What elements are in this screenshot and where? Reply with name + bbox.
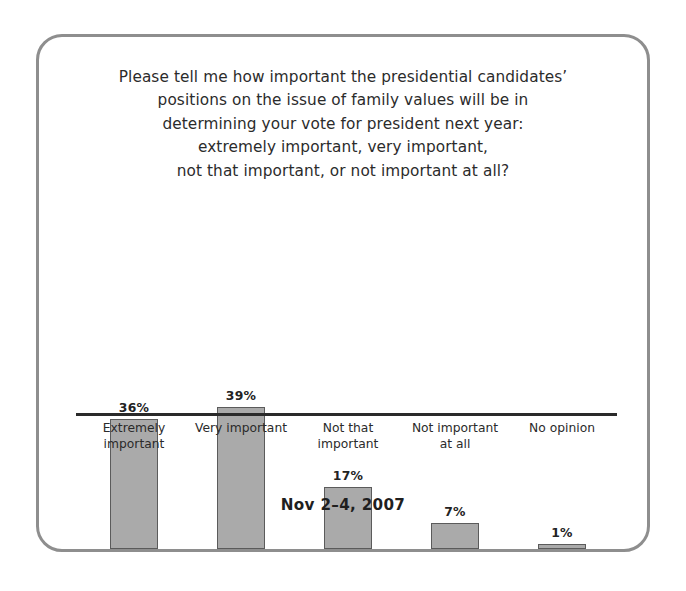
x-axis-baseline	[76, 413, 617, 416]
category-label-no-opinion: No opinion	[504, 421, 620, 437]
category-label-line-1: Not that	[323, 421, 373, 435]
poll-chart-card: Please tell me how important the preside…	[36, 34, 650, 552]
category-label-line-2: at all	[440, 437, 471, 451]
bar-value-label-5: 1%	[520, 525, 604, 540]
bar-group-very-important: 39%	[217, 173, 265, 549]
bar-group-extremely-important: 36%	[110, 173, 158, 549]
category-label-line-1: Not important	[412, 421, 498, 435]
bar-chart-plot: 36% 39% 17% 7% 1% Extremely important	[39, 37, 647, 549]
bar-rect-4	[431, 523, 479, 549]
category-label-not-important-at-all: Not important at all	[397, 421, 513, 452]
bar-group-not-that-important: 17%	[324, 173, 372, 549]
category-label-line-2: important	[104, 437, 165, 451]
x-axis-category-labels: Extremely important Very important Not t…	[39, 421, 647, 467]
category-label-extremely-important: Extremely important	[76, 421, 192, 452]
bar-group-not-important-at-all: 7%	[431, 173, 479, 549]
category-label-line-2: important	[318, 437, 379, 451]
bar-value-label-2: 39%	[199, 388, 283, 403]
bar-group-no-opinion: 1%	[538, 173, 586, 549]
category-label-line-1: Extremely	[103, 421, 165, 435]
category-label-line-1: No opinion	[529, 421, 595, 435]
category-label-very-important: Very important	[183, 421, 299, 437]
bar-rect-5	[538, 544, 586, 549]
category-label-line-1: Very important	[195, 421, 287, 435]
bar-value-label-3: 17%	[306, 468, 390, 483]
poll-date-footer: Nov 2–4, 2007	[39, 496, 647, 514]
category-label-not-that-important: Not that important	[290, 421, 406, 452]
